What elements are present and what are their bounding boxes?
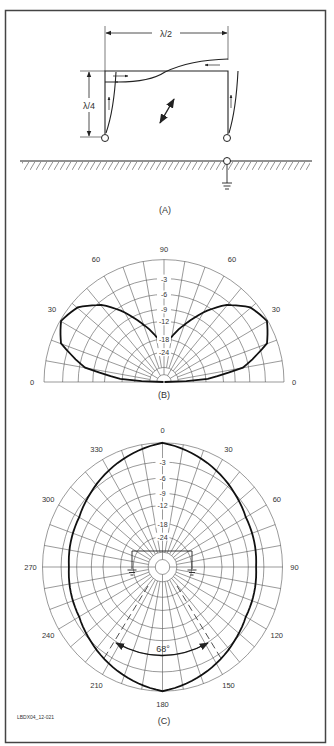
angle-label: 90 [290,563,298,572]
elevation-pattern-chart: 030609060300-3-6-9-12-18-24 (B) [30,245,296,400]
db-label: -9 [161,306,167,313]
db-label: -6 [159,475,165,482]
angle-label: 240 [42,631,55,640]
db-label: -24 [157,534,167,541]
angle-label: 330 [90,445,103,454]
db-label: -24 [159,349,169,356]
beamwidth-label: 68° [156,644,170,654]
angle-label: 0 [292,378,296,387]
angle-label: 60 [92,255,100,264]
angle-label: 120 [271,631,284,640]
antenna-wire [105,71,228,134]
figure: λ/2 λ/4 (A) [0,0,334,746]
db-label: -12 [159,318,169,325]
db-label: -12 [157,502,167,509]
angle-label: 30 [48,305,56,314]
polarization-arrow-icon [160,99,174,123]
figure-id: LBDX04_12-021 [17,714,54,720]
panel-b-label: (B) [158,390,170,400]
angle-label: 270 [24,563,37,572]
panel-c-label: (C) [158,716,171,726]
angle-label: 60 [273,495,281,504]
angle-label: 150 [222,681,235,690]
db-label: -6 [161,291,167,298]
db-label: -9 [159,490,165,497]
angle-label: 300 [42,495,55,504]
terminal-right-icon [224,135,231,142]
terminal-left-icon [102,135,109,142]
db-label: -18 [157,521,167,528]
angle-label: 0 [30,378,34,387]
antenna-diagram: λ/2 λ/4 (A) [20,26,312,215]
angle-label: 0 [160,426,164,435]
angle-label: 210 [90,681,103,690]
panel-a-label: (A) [159,205,171,215]
db-label: -3 [161,276,167,283]
db-label: -3 [159,459,165,466]
db-label: -18 [159,336,169,343]
angle-label: 30 [224,445,232,454]
angle-label: 60 [228,255,236,264]
angle-label: 90 [160,245,168,254]
quarter-wave-label: λ/4 [83,101,95,111]
angle-label: 180 [156,700,169,709]
angle-label: 30 [272,305,280,314]
azimuth-pattern-chart: 68° 0306090120150180210240270300330-3-6-… [24,426,298,726]
half-wave-label: λ/2 [160,29,172,39]
ground-symbol-icon [222,183,232,189]
